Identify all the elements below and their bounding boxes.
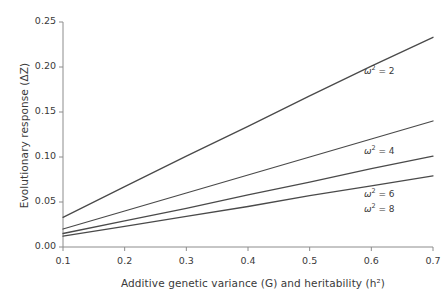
x-tick-label-2: 0.3 <box>166 255 206 266</box>
y-tick-label-3: 0.15 <box>35 105 56 116</box>
x-tick-label-0: 0.1 <box>43 255 83 266</box>
y-tick-label-0: 0.00 <box>35 240 56 251</box>
y-tick-label-2: 0.10 <box>35 150 56 161</box>
y-tick-label-1: 0.05 <box>35 195 56 206</box>
x-tick-label-3: 0.4 <box>228 255 268 266</box>
series-label-omega-2: ω2 = 2 <box>364 64 395 76</box>
x-tick-label-5: 0.6 <box>351 255 391 266</box>
series-label-omega-6: ω2 = 6 <box>364 187 395 199</box>
series-label-omega-8: ω2 = 8 <box>364 202 395 214</box>
y-tick-label-5: 0.25 <box>35 15 56 26</box>
y-axis-title: Evolutionary response (ΔZ) <box>18 63 30 208</box>
series-label-omega-4: ω2 = 4 <box>364 144 395 156</box>
y-tick-label-4: 0.20 <box>35 60 56 71</box>
x-axis-title-wrap: Additive genetic variance (G) and herita… <box>63 272 443 291</box>
x-tick-label-6: 0.7 <box>413 255 443 266</box>
y-axis-title-wrap: Evolutionary response (ΔZ) <box>13 26 32 246</box>
x-axis-title: Additive genetic variance (G) and herita… <box>121 277 385 289</box>
x-tick-label-1: 0.2 <box>105 255 145 266</box>
chart-figure: Evolutionary response (ΔZ) Additive gene… <box>0 0 443 298</box>
x-tick-label-4: 0.5 <box>290 255 330 266</box>
